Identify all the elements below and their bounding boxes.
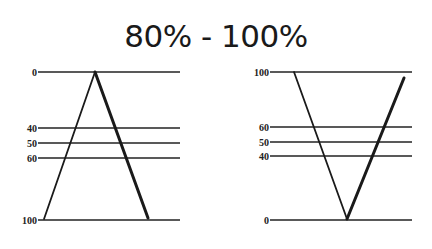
left-thick-leg	[95, 72, 148, 218]
right-label-40: 40	[259, 151, 269, 162]
right-diagram: 100 60 50 40 0	[254, 67, 412, 226]
right-label-60: 60	[259, 122, 269, 133]
left-label-50: 50	[27, 138, 37, 149]
diagrams-canvas: 0 40 50 60 100 100 60 50 40 0	[0, 0, 432, 249]
left-label-60: 60	[27, 153, 37, 164]
right-labels: 100 60 50 40 0	[254, 67, 269, 226]
right-label-0: 0	[264, 215, 269, 226]
left-thin-leg	[44, 72, 95, 219]
left-level-lines	[38, 72, 180, 220]
left-labels: 0 40 50 60 100	[22, 67, 37, 226]
left-label-100: 100	[22, 215, 37, 226]
right-level-lines	[270, 72, 412, 220]
left-label-0: 0	[32, 67, 37, 78]
right-thin-leg	[294, 72, 347, 219]
right-label-100: 100	[254, 67, 269, 78]
right-label-50: 50	[259, 137, 269, 148]
left-label-40: 40	[27, 123, 37, 134]
left-diagram: 0 40 50 60 100	[22, 67, 180, 226]
right-thick-leg	[347, 78, 404, 219]
